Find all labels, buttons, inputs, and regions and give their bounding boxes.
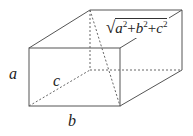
- box-diagram: a c b √a2+b2+c2: [0, 0, 193, 136]
- plus-2: +: [148, 20, 156, 36]
- front-face: [29, 48, 120, 106]
- label-b: b: [68, 113, 76, 129]
- label-a: a: [9, 66, 17, 82]
- term-a: a: [115, 20, 123, 36]
- exp-c: 2: [163, 19, 168, 29]
- space-diagonal-formula: √a2+b2+c2: [106, 17, 169, 38]
- label-c: c: [53, 73, 60, 89]
- term-c: c: [156, 20, 163, 36]
- top-left-edge: [29, 10, 90, 48]
- radical-sign: √: [106, 18, 115, 37]
- bottom-right-edge: [120, 70, 182, 106]
- plus-1: +: [127, 20, 135, 36]
- radicand: a2+b2+c2: [115, 18, 167, 36]
